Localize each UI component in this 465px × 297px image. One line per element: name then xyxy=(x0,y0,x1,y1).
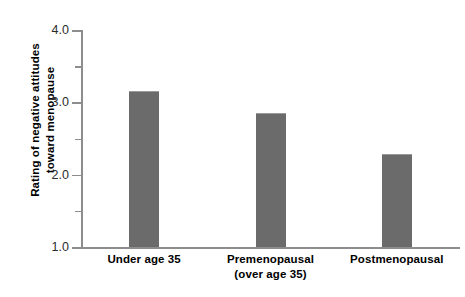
y-tick-mark xyxy=(72,102,81,104)
y-tick-mark xyxy=(72,30,81,32)
x-axis-label-line: Premenopausal xyxy=(227,253,314,265)
y-tick-mark xyxy=(72,175,81,177)
bar xyxy=(129,91,159,247)
x-axis-label: Premenopausal(over age 35) xyxy=(207,252,333,282)
y-tick-label: 4.0 xyxy=(52,23,69,37)
y-axis-title-line-1: Rating of negative attitudes xyxy=(28,43,43,197)
x-axis-label-line: Under age 35 xyxy=(107,253,180,265)
y-tick-minor xyxy=(75,139,81,141)
y-tick-label: 1.0 xyxy=(52,240,69,254)
plot-area: 1.02.03.04.0 xyxy=(81,30,460,247)
y-tick-mark xyxy=(72,247,81,249)
y-tick-minor xyxy=(75,66,81,68)
bar-chart: Rating of negative attitudes toward meno… xyxy=(0,0,465,297)
x-axis-label-line: (over age 35) xyxy=(207,267,333,282)
y-axis-title-line-2: toward menopause xyxy=(43,67,58,173)
y-tick-minor xyxy=(75,211,81,213)
bar xyxy=(256,113,286,247)
x-axis-label: Under age 35 xyxy=(81,252,207,267)
x-axis-labels: Under age 35Premenopausal(over age 35)Po… xyxy=(81,252,460,297)
y-axis-title: Rating of negative attitudes toward meno… xyxy=(26,15,60,225)
x-axis-line xyxy=(81,247,460,249)
y-tick-label: 3.0 xyxy=(52,95,69,109)
y-tick-label: 2.0 xyxy=(52,168,69,182)
y-axis-line xyxy=(81,30,83,247)
bar xyxy=(382,154,412,247)
x-axis-label: Postmenopausal xyxy=(334,252,460,267)
x-axis-label-line: Postmenopausal xyxy=(350,253,443,265)
